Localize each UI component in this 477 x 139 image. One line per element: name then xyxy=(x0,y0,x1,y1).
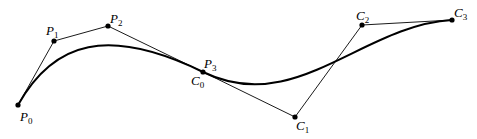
label-p3: P3 xyxy=(203,56,217,73)
label-p0: P0 xyxy=(19,109,33,126)
bezier-diagram: P0 P1 P2 P3 C0 C1 C2 C3 xyxy=(0,0,477,139)
bezier-curve-c xyxy=(203,20,452,84)
label-c3: C3 xyxy=(454,5,468,22)
label-p2: P2 xyxy=(109,11,122,28)
label-c0: C0 xyxy=(191,73,205,90)
label-p1: P1 xyxy=(45,23,58,40)
label-c1: C1 xyxy=(296,118,309,135)
label-c2: C2 xyxy=(356,8,369,25)
bezier-curve-p xyxy=(18,45,203,105)
control-polygon-c xyxy=(203,20,452,117)
point-p0 xyxy=(15,102,20,107)
